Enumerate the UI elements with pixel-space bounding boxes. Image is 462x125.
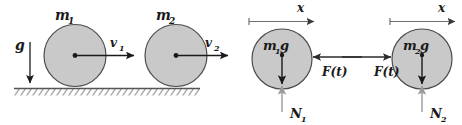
x-axis-2: x xyxy=(390,1,455,25)
label-m1-subscript: 1 xyxy=(68,16,74,26)
applied-force-1: F(t) xyxy=(313,57,362,79)
label-Ft-right: F(t) xyxy=(373,65,399,79)
label-x-1: x xyxy=(296,1,305,15)
label-v1: v 1 xyxy=(110,36,125,53)
label-m1: m 1 xyxy=(55,7,74,26)
label-v1-base: v xyxy=(110,36,118,50)
x-axis-1: x xyxy=(249,1,314,25)
figure-canvas: m 1 m 2 v 1 v 2 g xyxy=(0,0,462,125)
kinematic-panel: m 1 m 2 v 1 v 2 g xyxy=(14,7,228,96)
physics-figure: m 1 m 2 v 1 v 2 g xyxy=(0,0,462,125)
label-v1-subscript: 1 xyxy=(119,43,125,53)
disk-1 xyxy=(44,25,134,87)
label-v2-subscript: 2 xyxy=(213,43,220,53)
fbd-panel-1: x N 1 F(t) m 1 g xyxy=(249,1,362,124)
label-x-2: x xyxy=(437,1,446,15)
label-m2: m 2 xyxy=(156,7,175,26)
label-N2-subscript: 2 xyxy=(440,114,447,124)
label-g: g xyxy=(15,37,25,53)
label-Ft-left: F(t) xyxy=(321,65,347,79)
label-m1g-gravity: g xyxy=(280,38,289,53)
label-v2-base: v xyxy=(205,36,213,50)
hatched-ground xyxy=(14,89,200,96)
disk-2 xyxy=(145,25,228,87)
label-v2: v 2 xyxy=(205,36,220,53)
normal-force-1: N 1 xyxy=(282,86,307,124)
label-m2g-gravity: g xyxy=(420,38,429,53)
applied-force-2: F(t) xyxy=(342,57,399,79)
label-N1-subscript: 1 xyxy=(301,114,307,124)
normal-force-2: N 2 xyxy=(422,86,447,124)
label-m2-subscript: 2 xyxy=(168,16,175,26)
fbd-panel-2: x N 2 F(t) m 2 g xyxy=(342,1,455,124)
